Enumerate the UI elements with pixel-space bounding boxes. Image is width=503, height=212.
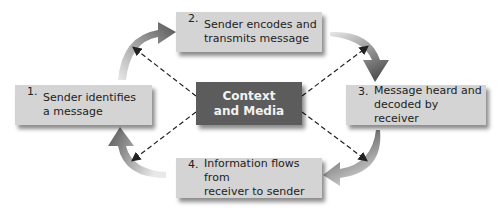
- step-number: 4.: [188, 158, 204, 172]
- flow-arrow-1-to-2: [118, 22, 176, 80]
- flow-arrow-4-to-1: [108, 127, 166, 178]
- step-number: 1.: [27, 85, 43, 99]
- step-box-3: 3. Message heard and decoded by receiver: [346, 85, 486, 125]
- flow-arrow-2-to-3: [330, 32, 389, 82]
- flow-arrow-3-to-4: [323, 130, 380, 186]
- step-text: Information flows from receiver to sende…: [204, 157, 322, 199]
- center-context-box: Context and Media: [196, 82, 302, 125]
- step-number: 2.: [188, 12, 204, 26]
- step-text: Message heard and decoded by receiver: [374, 84, 486, 126]
- step-box-4: 4. Information flows from receiver to se…: [176, 158, 322, 198]
- step-text: Sender encodes and transmits message: [204, 18, 317, 46]
- step-box-1: 1. Sender identifies a message: [15, 85, 152, 125]
- step-text: Sender identifies a message: [43, 91, 136, 119]
- step-number: 3.: [358, 85, 374, 99]
- step-box-2: 2. Sender encodes and transmits message: [176, 12, 322, 52]
